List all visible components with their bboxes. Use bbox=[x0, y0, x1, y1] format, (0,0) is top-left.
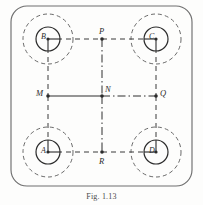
point-label-n: N bbox=[105, 85, 111, 94]
point-label-m: M bbox=[36, 89, 43, 98]
point-label-r: R bbox=[99, 157, 104, 166]
node-dot-c bbox=[154, 37, 157, 40]
node-dot-b bbox=[46, 37, 49, 40]
point-dot-p bbox=[100, 37, 104, 41]
node-label-a: A bbox=[41, 147, 46, 155]
node-label-b: B bbox=[41, 33, 46, 41]
point-label-p: P bbox=[99, 27, 104, 36]
point-label-q: Q bbox=[160, 89, 166, 98]
figure-caption: Fig. 1.13 bbox=[0, 192, 203, 205]
node-dot-a bbox=[46, 150, 49, 153]
point-dot-r bbox=[100, 150, 104, 154]
point-dot-q bbox=[154, 94, 158, 98]
figure-container: B C A D P M N Q R Fig. 1.13 bbox=[0, 0, 203, 205]
node-label-d: D bbox=[149, 147, 155, 155]
point-dot-m bbox=[46, 94, 50, 98]
point-dot-n bbox=[100, 94, 104, 98]
node-label-c: C bbox=[149, 33, 154, 41]
